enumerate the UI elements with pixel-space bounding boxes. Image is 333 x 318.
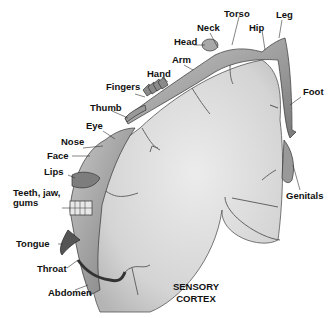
label-hip: Hip <box>249 23 264 33</box>
label-neck: Neck <box>197 23 220 33</box>
label-fingers: Fingers <box>106 82 140 92</box>
label-tongue: Tongue <box>16 239 50 249</box>
label-leg: Leg <box>276 10 293 20</box>
brain-cross-section <box>89 60 283 312</box>
label-torso: Torso <box>224 9 250 19</box>
label-arm: Arm <box>172 55 191 65</box>
diagram-title: SENSORY CORTEX <box>170 281 222 305</box>
label-abdomen: Abdomen <box>48 288 92 298</box>
title-line-1: SENSORY <box>170 281 222 293</box>
title-line-2: CORTEX <box>170 293 222 305</box>
label-hand: Hand <box>147 69 171 79</box>
label-nose: Nose <box>61 137 84 147</box>
label-foot: Foot <box>303 87 324 97</box>
label-teeth-jaw-gums: Teeth, jaw, gums <box>13 188 61 208</box>
homunculus-genitals <box>282 140 294 183</box>
label-genitals: Genitals <box>286 191 324 201</box>
label-throat: Throat <box>37 264 67 274</box>
label-thumb: Thumb <box>90 103 122 113</box>
label-lips: Lips <box>44 167 64 177</box>
label-eye: Eye <box>86 121 103 131</box>
label-teeth-line2: gums <box>13 198 61 208</box>
label-head: Head <box>174 37 197 47</box>
label-face: Face <box>47 151 69 161</box>
